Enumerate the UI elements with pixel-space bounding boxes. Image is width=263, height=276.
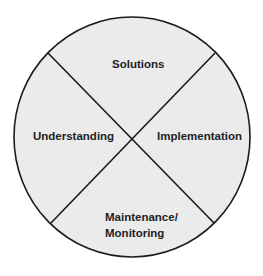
segment-label-understanding: Understanding xyxy=(33,130,114,143)
segment-label-maintenance-monitoring: Maintenance/ Monitoring xyxy=(105,209,178,241)
segment-label-solutions: Solutions xyxy=(112,58,164,71)
segment-label-implementation: Implementation xyxy=(157,130,242,143)
segment-label-line-1: Maintenance/ xyxy=(105,209,178,225)
segment-label-line-2: Monitoring xyxy=(105,225,178,241)
